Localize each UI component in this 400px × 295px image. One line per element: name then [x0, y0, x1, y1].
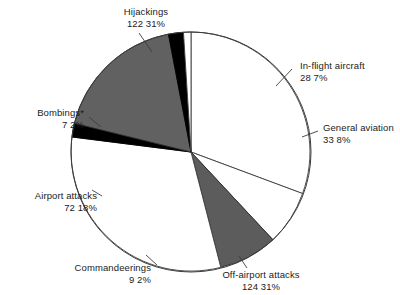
pie-chart-figure: Hijackings 122 31% In-flight aircraft 28… [0, 0, 400, 295]
pie-chart-canvas [0, 0, 400, 295]
slice-label-bombings-value: 7 2% [5, 119, 84, 131]
slice-label-general-aviation: General aviation 33 8% [323, 122, 394, 145]
slice-label-off-airport-attacks-value: 124 31% [207, 281, 315, 293]
slice-label-hijackings: Hijackings 122 31% [103, 6, 189, 29]
slice-label-commandeerings: Commandeerings 9 2% [41, 262, 151, 285]
slice-label-airport-attacks: Airport attacks 72 18% [5, 190, 97, 213]
slice-label-in-flight-aircraft: In-flight aircraft 28 7% [300, 60, 365, 83]
slice-label-off-airport-attacks: Off-airport attacks 124 31% [207, 269, 315, 292]
slice-label-in-flight-aircraft-name: In-flight aircraft [300, 60, 365, 72]
slice-label-airport-attacks-value: 72 18% [5, 202, 97, 214]
slice-label-off-airport-attacks-name: Off-airport attacks [207, 269, 315, 281]
slice-label-general-aviation-value: 33 8% [323, 134, 394, 146]
slice-label-airport-attacks-name: Airport attacks [5, 190, 97, 202]
slice-label-commandeerings-name: Commandeerings [41, 262, 151, 274]
slice-label-hijackings-name: Hijackings [103, 6, 189, 18]
slice-label-in-flight-aircraft-value: 28 7% [300, 72, 365, 84]
slice-label-bombings: Bombings* 7 2% [5, 107, 84, 130]
slice-label-commandeerings-value: 9 2% [41, 274, 151, 286]
slice-label-hijackings-value: 122 31% [103, 18, 189, 30]
slice-label-bombings-name: Bombings* [5, 107, 84, 119]
slice-label-general-aviation-name: General aviation [323, 122, 394, 134]
pie-slices [71, 32, 311, 272]
